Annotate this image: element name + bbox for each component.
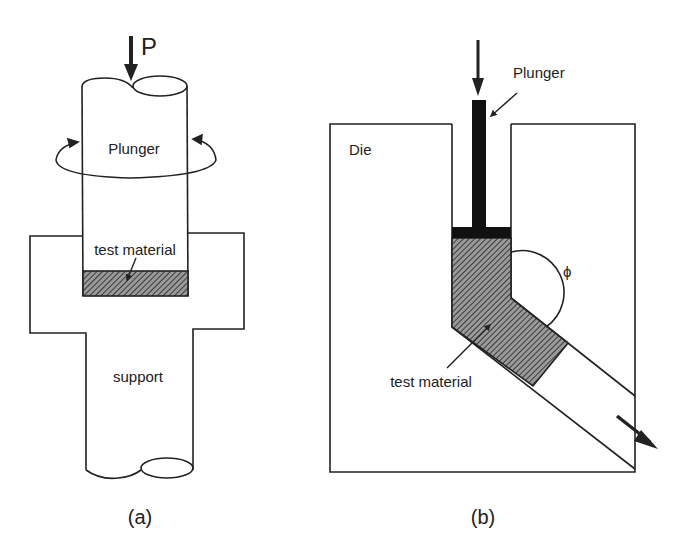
support-label: support [113, 368, 164, 385]
die-label: Die [349, 141, 372, 158]
angle-label: ϕ [563, 263, 571, 280]
input-arrowhead [472, 78, 484, 96]
plunger-top-ellipse [133, 76, 187, 96]
material-label-b: test material [390, 373, 472, 390]
load-label: P [141, 33, 157, 60]
figure: P Plunger test material support (a) Die [0, 0, 692, 552]
plunger-right-edge [187, 86, 188, 296]
rotation-arrowhead-right [193, 135, 202, 144]
plunger-left-edge [82, 86, 83, 296]
test-material-b [452, 238, 568, 386]
caption-b: (b) [471, 506, 495, 528]
plunger-label-b: Plunger [513, 64, 565, 81]
panel-b [330, 40, 658, 472]
plunger-head [452, 227, 511, 238]
plunger-rod [472, 100, 486, 228]
rotation-arrowhead-left [68, 139, 78, 147]
plunger-pointer-b [491, 93, 517, 116]
plunger-top-break [82, 78, 133, 88]
support-body [30, 233, 244, 470]
support-bottom-break [86, 470, 141, 478]
test-material-a [83, 271, 188, 296]
caption-a: (a) [128, 506, 152, 528]
material-label-a: test material [94, 241, 176, 258]
support-bottom-ellipse [141, 458, 193, 478]
plunger-label-a: Plunger [108, 140, 160, 157]
load-arrowhead [124, 64, 138, 81]
